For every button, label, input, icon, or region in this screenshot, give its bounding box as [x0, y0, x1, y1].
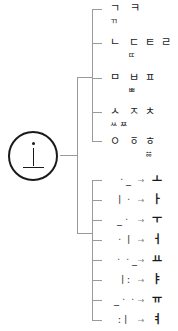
vowel-source: ㅣㆍ [114, 194, 134, 206]
vowel-result: ㅠ [148, 294, 166, 306]
horizontal-stroke-icon [23, 167, 44, 168]
arrow-icon: → [134, 255, 148, 267]
vowel-result: ㅜ [148, 214, 166, 226]
arrow-icon: → [134, 315, 148, 327]
vowel-result: ㅓ [148, 234, 166, 246]
basic-consonant: ㅇ [110, 136, 120, 148]
basic-consonant: ㅅ [110, 106, 120, 118]
tick [92, 200, 102, 201]
upper-trunk [92, 9, 93, 141]
vowel-row: ㅣ:→ㅑ [114, 274, 166, 287]
lower-trunk [92, 180, 93, 320]
tick [92, 320, 102, 321]
vowel-row: ㆍ_→ㅗ [114, 174, 166, 187]
vowel-source: ㆍ_ [114, 174, 134, 186]
vowel-row: ㅣㆍ→ㅏ [114, 194, 166, 207]
vowel-source: _ㆍㆍ [114, 294, 134, 306]
derived-consonant: ㆆ [129, 136, 139, 148]
vowel-row: _ㆍ→ㅜ [114, 214, 166, 227]
arrow-icon: → [134, 235, 148, 247]
vowel-result: ㅛ [148, 254, 166, 266]
tick [92, 43, 102, 44]
tick [92, 141, 102, 142]
vowel-source: ㅣ: [114, 274, 134, 286]
vowel-row: ㆍㅣ→ㅓ [114, 234, 166, 247]
vowel-result: ㅏ [148, 194, 166, 206]
arrow-icon: → [134, 215, 148, 227]
vowel-source: ㆍㅣ [114, 234, 134, 246]
arrow-icon: → [134, 175, 148, 187]
tick [92, 240, 102, 241]
arrow-icon: → [134, 295, 148, 307]
tick [92, 280, 102, 281]
basic-consonant: ㄱ [110, 3, 120, 15]
root-node-basic-strokes [8, 131, 58, 181]
double-consonant: ㄲ [110, 17, 117, 26]
tick [92, 112, 102, 113]
derived-consonant: ㅌ [145, 37, 155, 49]
double-consonant: ㄸ [128, 51, 135, 60]
lower-branch-connector [77, 233, 92, 234]
tick [92, 220, 102, 221]
derived-consonant: ㄹ [161, 37, 171, 49]
vowel-result: ㅗ [148, 174, 166, 186]
dot-stroke-icon [32, 142, 35, 145]
main-trunk [77, 77, 78, 234]
upper-branch-connector [77, 77, 92, 78]
tick [92, 180, 102, 181]
vowel-source: _ㆍ [114, 214, 134, 226]
vowel-source: ㆍㆍ_ [114, 254, 134, 266]
arrow-icon: → [134, 275, 148, 287]
tick [92, 9, 102, 10]
tick [92, 300, 102, 301]
vowel-result: ㅑ [148, 274, 166, 286]
arrow-icon: → [134, 195, 148, 207]
double-consonant: ㅆ ㅉ [110, 120, 127, 129]
vowel-source: :ㅣ [114, 314, 134, 326]
basic-consonant: ㅁ [110, 72, 120, 84]
tick [92, 260, 102, 261]
derived-consonant: ㅂ [129, 72, 139, 84]
derived-consonant: ㅊ [145, 106, 155, 118]
vertical-stroke-icon [33, 148, 34, 166]
vowel-row: _ㆍㆍ→ㅠ [114, 294, 166, 307]
derived-consonant: ㅍ [145, 72, 155, 84]
double-consonant: ㅃ [128, 86, 135, 95]
vowel-result: ㅕ [148, 314, 166, 326]
derived-consonant: ㄷ [129, 37, 139, 49]
derived-consonant: ㅋ [130, 3, 140, 15]
basic-consonant: ㄴ [110, 37, 120, 49]
derived-consonant: ㅈ [129, 106, 139, 118]
vowel-row: :ㅣ→ㅕ [114, 314, 166, 327]
double-consonant: ㆅ [145, 150, 152, 159]
tick [92, 78, 102, 79]
vowel-row: ㆍㆍ_→ㅛ [114, 254, 166, 267]
derived-consonant: ㅎ [145, 136, 155, 148]
root-connector [60, 155, 78, 156]
